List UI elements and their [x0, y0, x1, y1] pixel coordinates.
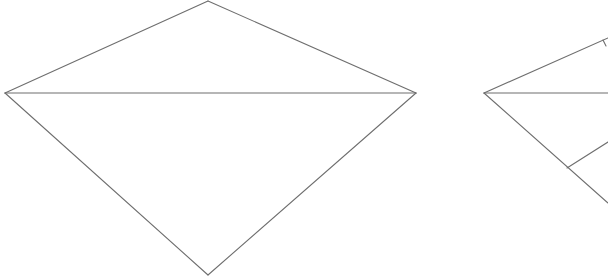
kite-left-edge-4	[208, 93, 416, 275]
kite-left-figure	[5, 1, 416, 275]
kite-right-partial-edge-0	[484, 38, 608, 93]
kite-left-edge-1	[208, 1, 416, 93]
kite-right-partial-edge-4	[567, 142, 608, 168]
kite-right-partial-edge-1	[603, 40, 606, 46]
kite-left-edge-0	[5, 1, 208, 93]
diagram-canvas	[0, 0, 608, 277]
kite-right-partial-figure	[484, 38, 608, 203]
kite-left-edge-3	[5, 93, 208, 275]
kite-right-partial-edge-3	[484, 93, 608, 203]
